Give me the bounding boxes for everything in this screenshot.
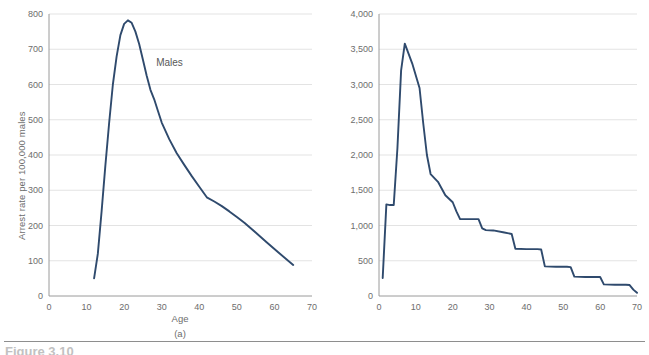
figure-container: 0100200300400500600700800010203040506070…: [0, 0, 649, 355]
svg-text:400: 400: [28, 150, 43, 160]
svg-text:50: 50: [558, 302, 568, 312]
svg-text:60: 60: [595, 302, 605, 312]
svg-text:100: 100: [28, 256, 43, 266]
svg-text:600: 600: [28, 80, 43, 90]
chart-a-canvas: 0100200300400500600700800010203040506070: [0, 0, 324, 340]
chart-a-y-axis-label: Arrest rate per 100,000 males: [16, 111, 27, 240]
svg-text:300: 300: [28, 185, 43, 195]
svg-text:10: 10: [82, 302, 92, 312]
svg-text:200: 200: [28, 221, 43, 231]
svg-text:70: 70: [632, 302, 642, 312]
svg-text:0: 0: [376, 302, 381, 312]
svg-text:20: 20: [448, 302, 458, 312]
chart-a-panel-tag: (a): [160, 328, 200, 339]
svg-text:1,500: 1,500: [350, 185, 373, 195]
charts-row: 0100200300400500600700800010203040506070…: [0, 0, 649, 340]
svg-text:500: 500: [28, 115, 43, 125]
svg-text:30: 30: [485, 302, 495, 312]
svg-text:70: 70: [307, 302, 317, 312]
chart-a-x-axis-label: Age: [150, 313, 210, 324]
figure-caption: Figure 3.10: [5, 345, 74, 355]
chart-b-canvas: 05001,0001,5002,0002,5003,0003,5004,0000…: [325, 0, 649, 340]
svg-text:3,500: 3,500: [350, 44, 373, 54]
svg-text:0: 0: [46, 302, 51, 312]
svg-text:2,500: 2,500: [350, 115, 373, 125]
svg-text:10: 10: [411, 302, 421, 312]
svg-text:20: 20: [119, 302, 129, 312]
svg-text:0: 0: [368, 291, 373, 301]
svg-text:40: 40: [194, 302, 204, 312]
svg-text:800: 800: [28, 9, 43, 19]
chart-a-series-annotation: Males: [156, 57, 183, 68]
svg-text:50: 50: [232, 302, 242, 312]
chart-panel-b: 05001,0001,5002,0002,5003,0003,5004,0000…: [325, 0, 649, 340]
svg-text:500: 500: [358, 256, 373, 266]
svg-text:40: 40: [521, 302, 531, 312]
svg-text:3,000: 3,000: [350, 80, 373, 90]
svg-text:60: 60: [269, 302, 279, 312]
svg-text:2,000: 2,000: [350, 150, 373, 160]
svg-text:700: 700: [28, 44, 43, 54]
svg-text:0: 0: [38, 291, 43, 301]
chart-panel-a: 0100200300400500600700800010203040506070…: [0, 0, 324, 340]
svg-text:1,000: 1,000: [350, 221, 373, 231]
svg-text:30: 30: [157, 302, 167, 312]
svg-text:4,000: 4,000: [350, 9, 373, 19]
figure-caption-rule: [4, 341, 645, 342]
